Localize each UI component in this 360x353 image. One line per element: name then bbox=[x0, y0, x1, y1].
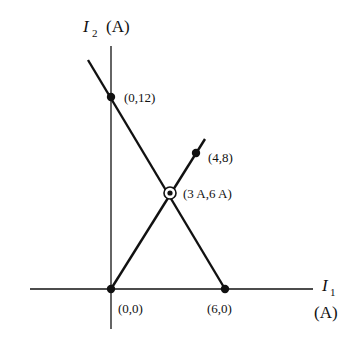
point-0-12 bbox=[107, 93, 115, 101]
iv-diagram: (0,12) (4,8) (3 A,6 A) (0,0) (6,0) I 2 (… bbox=[0, 0, 360, 353]
label-0-0: (0,0) bbox=[118, 301, 143, 316]
svg-text:(A): (A) bbox=[106, 17, 130, 36]
y-axis-label: I 2 (A) bbox=[82, 17, 130, 39]
svg-text:1: 1 bbox=[330, 286, 336, 298]
line-through-0-0-and-4-8 bbox=[111, 139, 205, 289]
label-4-8: (4,8) bbox=[208, 150, 233, 165]
svg-text:I: I bbox=[321, 276, 329, 295]
x-axis-label: I 1 (A) bbox=[314, 276, 338, 322]
svg-text:2: 2 bbox=[92, 27, 98, 39]
svg-text:I: I bbox=[82, 17, 90, 36]
point-0-0 bbox=[107, 285, 115, 293]
point-6-0 bbox=[221, 285, 229, 293]
label-6-0: (6,0) bbox=[207, 301, 232, 316]
svg-text:(A): (A) bbox=[314, 303, 338, 322]
label-0-12: (0,12) bbox=[124, 90, 155, 105]
label-3-6: (3 A,6 A) bbox=[183, 186, 232, 201]
point-4-8 bbox=[192, 149, 200, 157]
point-3-6-intersection bbox=[164, 187, 176, 199]
